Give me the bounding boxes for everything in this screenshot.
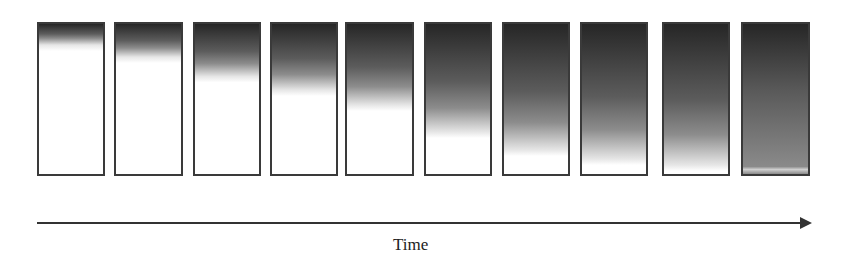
container-frame-6	[424, 22, 492, 176]
container-frame-10	[741, 22, 810, 176]
container-frame-5	[345, 22, 414, 176]
container-frame-1	[37, 22, 105, 176]
arrowhead-icon	[800, 217, 812, 229]
container-frame-4	[270, 22, 338, 176]
container-frame-8	[580, 22, 648, 176]
container-frame-9	[662, 22, 730, 176]
container-frame-2	[114, 22, 183, 176]
time-axis-line	[37, 222, 802, 224]
container-frame-7	[502, 22, 570, 176]
time-axis-label: Time	[393, 235, 428, 255]
container-frame-3	[193, 22, 261, 176]
